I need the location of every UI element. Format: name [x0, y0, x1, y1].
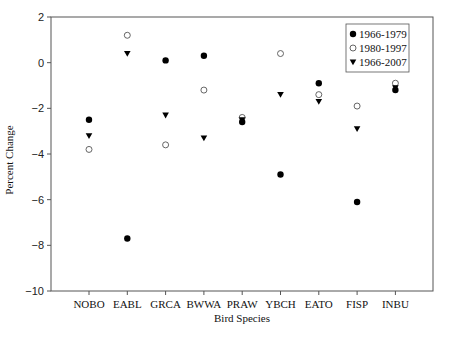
- data-point: [392, 87, 398, 93]
- y-axis-title: Percent Change: [3, 125, 15, 194]
- legend-marker-filled-circle: [350, 31, 356, 37]
- scatter-chart: 20−2−4−6−8−10 NOBOEABLGRCABWWAPRAWYBCHEA…: [0, 0, 450, 337]
- legend-marker-open-circle: [350, 45, 356, 51]
- data-point: [316, 80, 322, 86]
- x-axis-title: Bird Species: [214, 312, 270, 324]
- data-point: [124, 235, 130, 241]
- y-tick-label: −10: [25, 285, 44, 297]
- data-point: [86, 133, 93, 139]
- data-point: [201, 87, 207, 93]
- y-tick-label: 2: [38, 11, 44, 23]
- data-point: [277, 171, 283, 177]
- legend: 1966-19791980-19971966-2007: [346, 24, 409, 72]
- x-tick-label: EATO: [305, 298, 333, 310]
- x-tick-label: PRAW: [227, 298, 259, 310]
- data-point: [201, 53, 207, 59]
- data-point: [277, 92, 284, 98]
- y-tick-label: −4: [31, 148, 44, 160]
- data-point: [354, 126, 361, 132]
- data-point: [201, 135, 208, 141]
- data-point: [86, 146, 92, 152]
- y-tick-label: −8: [31, 239, 44, 251]
- y-tick-label: −6: [31, 194, 44, 206]
- x-tick-label: INBU: [382, 298, 409, 310]
- x-tick-label: YBCH: [265, 298, 296, 310]
- data-point: [124, 32, 130, 38]
- data-point: [316, 92, 322, 98]
- y-tick-label: −2: [31, 102, 44, 114]
- data-point: [86, 117, 92, 123]
- data-point: [278, 51, 284, 57]
- data-point: [162, 113, 169, 119]
- x-tick-label: BWWA: [186, 298, 221, 310]
- x-tick-label: EABL: [113, 298, 142, 310]
- y-tick-label: 0: [38, 57, 44, 69]
- legend-label: 1966-2007: [359, 56, 407, 68]
- legend-label: 1966-1979: [359, 28, 407, 40]
- x-tick-label: GRCA: [150, 298, 181, 310]
- data-point: [124, 51, 131, 57]
- series-1966-1979: [86, 53, 399, 242]
- data-point: [354, 103, 360, 109]
- y-axis: 20−2−4−6−8−10: [25, 11, 51, 297]
- data-point: [163, 142, 169, 148]
- x-tick-label: FISP: [346, 298, 368, 310]
- data-point: [239, 119, 245, 125]
- data-point: [162, 57, 168, 63]
- x-tick-label: NOBO: [73, 298, 104, 310]
- legend-label: 1980-1997: [359, 42, 407, 54]
- data-point: [316, 99, 323, 105]
- data-point: [354, 199, 360, 205]
- x-axis: NOBOEABLGRCABWWAPRAWYBCHEATOFISPINBU: [73, 291, 408, 310]
